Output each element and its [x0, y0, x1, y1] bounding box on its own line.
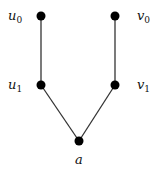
label-v0: v0 — [137, 8, 150, 25]
node-u1 — [37, 81, 46, 90]
node-v1 — [111, 81, 120, 90]
label-a: a — [75, 152, 83, 167]
label-u0: u0 — [8, 8, 22, 25]
edge-u1-a — [41, 85, 79, 141]
node-a — [75, 137, 84, 146]
graph-svg: u0 v0 u1 v1 a — [0, 0, 157, 172]
label-v1: v1 — [137, 77, 150, 94]
node-v0 — [111, 12, 120, 21]
edge-v1-a — [79, 85, 115, 141]
node-u0 — [37, 12, 46, 21]
label-u1: u1 — [8, 77, 22, 94]
graph-diagram: u0 v0 u1 v1 a — [0, 0, 157, 172]
